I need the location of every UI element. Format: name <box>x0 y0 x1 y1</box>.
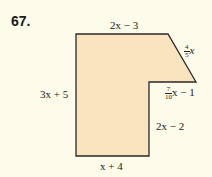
label-top: 2x − 3 <box>110 19 138 31</box>
label-left: 3x + 5 <box>40 88 68 100</box>
label-diagonal: 45x <box>184 44 194 59</box>
label-inner-right: 2x − 2 <box>156 120 184 132</box>
label-step: 710x − 1 <box>165 86 195 101</box>
label-bottom: x + 4 <box>100 160 123 172</box>
